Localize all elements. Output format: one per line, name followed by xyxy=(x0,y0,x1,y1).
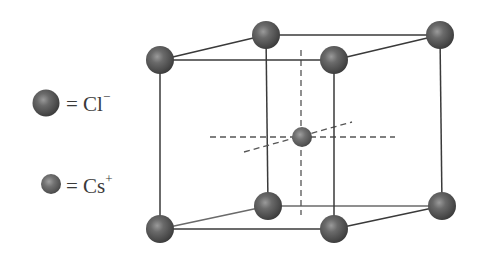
edge-depth-bottom-left xyxy=(160,206,268,229)
legend-symbols xyxy=(33,90,62,195)
legend-item-cesium: = Cs+ xyxy=(66,174,113,197)
equals-sign: = xyxy=(66,174,83,198)
legend-cs-sphere-icon xyxy=(41,174,61,194)
cl-ion-back-bottom-right xyxy=(428,192,456,220)
cscl-unit-cell-diagram xyxy=(0,0,485,258)
edge-back-right xyxy=(440,35,442,206)
ion-charge: − xyxy=(103,89,110,104)
cl-ion-front-top-left xyxy=(146,46,174,74)
equals-sign: = xyxy=(66,92,83,116)
edge-depth-bottom-right xyxy=(334,206,442,229)
cl-ion-back-top-left xyxy=(252,21,280,49)
ion-symbol: Cs xyxy=(83,174,105,198)
back-corner-ions xyxy=(252,21,456,220)
edge-depth-top-right xyxy=(334,35,440,60)
legend-item-chloride: = Cl− xyxy=(66,92,110,115)
cl-ion-back-bottom-left xyxy=(254,192,282,220)
ion-symbol: Cl xyxy=(83,92,103,116)
edge-depth-top-left xyxy=(160,35,266,60)
cs-ion-body-center xyxy=(292,127,312,147)
legend-label-cesium: = Cs+ xyxy=(66,174,113,198)
cl-ion-front-bottom-right xyxy=(320,215,348,243)
cl-ion-front-top-right xyxy=(320,46,348,74)
ion-charge: + xyxy=(105,171,112,186)
legend-cl-sphere-icon xyxy=(33,90,60,117)
front-corner-ions xyxy=(146,46,348,243)
legend-label-chloride: = Cl− xyxy=(66,92,110,116)
cl-ion-front-bottom-left xyxy=(146,215,174,243)
cl-ion-back-top-right xyxy=(426,21,454,49)
